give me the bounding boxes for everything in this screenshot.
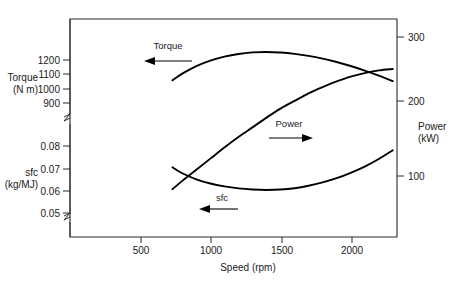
- power-annotation: Power: [269, 118, 313, 142]
- torque-ticklabel-1100: 1100: [38, 69, 60, 80]
- torque-ticklabel-1200: 1200: [38, 55, 61, 66]
- power-annotation-label: Power: [276, 118, 303, 129]
- sfc-ticklabel-007: 0.07: [41, 164, 61, 175]
- torque-annotation: Torque: [144, 40, 192, 65]
- speed-ticklabel-1000: 1000: [200, 245, 223, 256]
- speed-ticklabel-2000: 2000: [341, 245, 364, 256]
- sfc-axis-label-line1: sfc: [25, 167, 38, 178]
- sfc-ticklabel-008: 0.08: [41, 141, 61, 152]
- sfc-axis-label-line2: (kg/MJ): [5, 179, 38, 190]
- speed-ticklabel-500: 500: [133, 245, 150, 256]
- left-axis-upper-stub: [64, 19, 70, 121]
- arrow-left-icon: [199, 205, 210, 213]
- torque-ticklabel-900: 900: [43, 98, 60, 109]
- speed-axis-group: 500 1000 1500 2000 Speed (rpm): [133, 237, 364, 273]
- arrow-right-icon: [302, 134, 313, 142]
- plot-border: [70, 19, 397, 237]
- speed-ticklabel-1500: 1500: [271, 245, 294, 256]
- sfc-ticklabel-006: 0.06: [41, 186, 61, 197]
- sfc-ticklabel-005: 0.05: [41, 208, 61, 219]
- sfc-curve: [172, 150, 392, 190]
- plot-frame: [70, 19, 397, 237]
- axis-break-upper-icon: [64, 114, 70, 121]
- arrow-left-icon: [144, 57, 155, 65]
- power-ticklabel-200: 200: [408, 96, 425, 107]
- sfc-annotation-label: sfc: [216, 192, 228, 203]
- sfc-axis-group: 0.08 0.07 0.06 0.05 sfc (kg/MJ): [5, 141, 70, 219]
- left-axis-lower-stub: [64, 124, 70, 237]
- power-axis-label-line1: Power: [418, 121, 447, 132]
- torque-axis-group: 1200 1100 1000 900 Torque (N m): [7, 55, 70, 109]
- power-curve: [172, 69, 392, 189]
- torque-ticklabel-1000: 1000: [38, 84, 61, 95]
- torque-axis-label-line1: Torque: [7, 72, 38, 83]
- power-ticklabel-100: 100: [408, 171, 425, 182]
- axis-break-lower-icon: [64, 213, 70, 220]
- torque-axis-label-line2: (N m): [13, 84, 38, 95]
- chart-canvas: 1200 1100 1000 900 Torque (N m) 0.08 0.0…: [0, 0, 459, 281]
- engine-performance-chart: 1200 1100 1000 900 Torque (N m) 0.08 0.0…: [0, 0, 459, 281]
- power-ticklabel-300: 300: [408, 32, 425, 43]
- xaxis-label: Speed (rpm): [220, 262, 276, 273]
- sfc-annotation: sfc: [199, 192, 238, 213]
- torque-curve: [172, 52, 392, 81]
- torque-annotation-label: Torque: [153, 40, 182, 51]
- power-axis-label-line2: (kW): [418, 133, 439, 144]
- power-axis-group: 300 200 100 Power (kW): [397, 32, 447, 182]
